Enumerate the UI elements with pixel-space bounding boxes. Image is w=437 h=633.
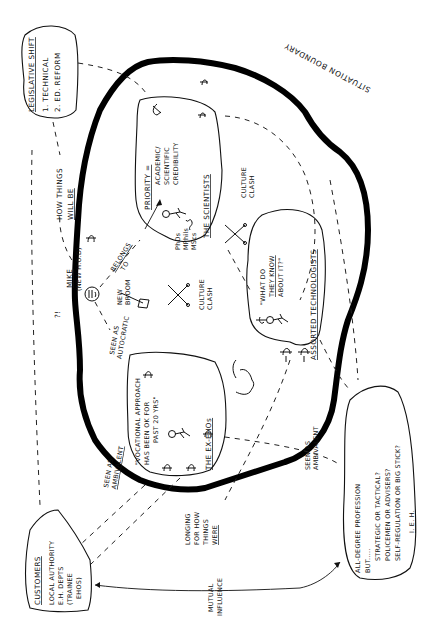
scientist-figures	[163, 208, 193, 230]
customers-line-4: EHOS)	[75, 577, 83, 599]
exehos-quote-3: PAST 20 YRS"	[152, 396, 160, 443]
profession-line-3: STRATEGIC OR TACTICAL?	[374, 472, 382, 561]
hat-icon	[186, 465, 196, 471]
hat-icon	[280, 348, 292, 362]
how-things-link	[53, 122, 60, 155]
technologists-title-group: ASSORTED TECHNOLOGISTS	[309, 249, 318, 360]
arrowhead	[95, 582, 100, 588]
crossed-swords-icon	[168, 284, 190, 307]
hat-icon	[200, 80, 208, 85]
profession-text: ALL-DEGREE PROFESSION BUT..... STRATEGIC…	[354, 445, 416, 573]
seen-ambivalent-right-text-1: SEEN AS	[304, 441, 312, 470]
culture-clash-1: CULTURE CLASH	[240, 167, 256, 198]
boundary-to-profession	[330, 180, 358, 380]
hat-icon	[198, 113, 206, 118]
technologists-quote: "WHAT DO THEY KNOW ABOUT IT?"	[259, 255, 285, 305]
priority-line-1: ACADEMIC/	[154, 146, 162, 185]
longing-text-3: THINGS	[202, 519, 210, 546]
degree-msc: MScs	[190, 232, 198, 250]
how-things-text-1: HOW THINGS	[55, 168, 64, 220]
rich-picture-diagram: SITUATION BOUNDARY LEGISLATIVE SHIFT 1. …	[0, 0, 437, 633]
hat-icon	[153, 104, 161, 115]
scientists-priority: PRIORITY = ACADEMIC/ SCIENTIFIC CREDIBIL…	[143, 142, 180, 210]
legislative-item-1: 1. TECHNICAL	[41, 57, 50, 112]
technologist-figures	[256, 314, 288, 324]
profession-line-2: BUT.....	[364, 548, 372, 573]
face-profile-icon	[233, 360, 254, 394]
exehos-title-group: THE EX-EHOs	[204, 418, 213, 471]
exehos-quote: "VOCATIONAL APPROACH HAS BEEN OK FOR PAS…	[134, 378, 160, 465]
exehos-quote-1: "VOCATIONAL APPROACH	[134, 378, 142, 465]
crossed-swords-icon	[225, 224, 247, 245]
mike-role: (NEW H.O.D)	[75, 247, 83, 291]
mutual-text-1: MUTUAL	[207, 583, 215, 612]
longing-link	[90, 478, 180, 565]
priority-line-3: CREDIBILITY	[172, 142, 180, 185]
exehos-title: THE EX-EHOs	[204, 418, 213, 471]
legislative-text: LEGISLATIVE SHIFT 1. TECHNICAL 2. ED. RE…	[27, 37, 62, 112]
longing-text-4: WERE	[211, 525, 219, 545]
boundary-label: SITUATION BOUNDARY	[283, 41, 372, 94]
mike-name: MIKE	[65, 269, 74, 288]
mike-exclaim-text: ?!	[53, 311, 62, 319]
profession-footer: I. E. H.	[408, 510, 416, 533]
how-things-text-2: WILL BE	[66, 188, 75, 220]
tech-quote-3: ABOUT IT?"	[277, 258, 285, 297]
tech-quote-1: "WHAT DO	[259, 269, 267, 305]
arrowhead	[156, 199, 162, 206]
priority-line-2: SCIENTIFIC	[163, 147, 171, 185]
customers-line-1: LOCAL AUTHORITY	[48, 541, 56, 605]
seen-autocratic-label: SEEN AS AUTOCRATIC	[108, 314, 131, 360]
hat-icon	[162, 465, 172, 471]
legislative-to-customers	[32, 150, 40, 505]
exehos-to-customers	[80, 485, 145, 545]
seen-ambivalent-right-text-2: AMBIVALENT	[312, 426, 320, 470]
mutual-influence-label: MUTUAL INFLUENCE	[207, 578, 224, 616]
customers-text: CUSTOMERS LOCAL AUTHORITY E.H. DEPTS (TR…	[33, 541, 83, 605]
hat-icon	[86, 236, 96, 242]
new-broom-text-2: BROOM	[124, 279, 132, 305]
scientists-title: THE SCIENTISTS	[202, 174, 211, 239]
profession-line-5: SELF-REGULATION OR BIG STICK?	[394, 445, 402, 561]
customers-line-2: E.H. DEPTS	[57, 566, 65, 605]
profession-line-4: POLICEMEN OR ADVISERS?	[384, 468, 392, 561]
boundary-label-group: SITUATION BOUNDARY	[283, 41, 372, 94]
seen-ambivalent-right: SEEN AS AMBIVALENT	[304, 426, 320, 470]
customers-title: CUSTOMERS	[33, 556, 42, 605]
mike-to-exehos	[95, 302, 110, 330]
culture-clash-1-text: CULTURE	[240, 167, 248, 198]
degree-mphil: MPhils	[182, 228, 190, 250]
culture-clash-2-text: CULTURE	[198, 279, 206, 310]
new-broom-label: NEW BROOM	[116, 279, 132, 305]
new-broom-text-1: NEW	[116, 289, 124, 305]
longing-text-1: LONGING	[184, 513, 192, 545]
legislative-title: LEGISLATIVE SHIFT	[27, 37, 36, 112]
degree-phd: PhDs	[174, 232, 182, 250]
culture-clash-2-text-2: CLASH	[206, 287, 214, 310]
belongs-to-label: BELONGS TO	[109, 241, 140, 277]
tech-quote-2: THEY KNOW	[268, 255, 276, 298]
exehos-figures	[169, 428, 191, 438]
situation-boundary	[75, 60, 368, 490]
arrowhead	[334, 562, 340, 568]
customers-line-3: (TRAINEE	[66, 573, 74, 605]
profession-line-1: ALL-DEGREE PROFESSION	[354, 484, 362, 573]
priority-label: PRIORITY =	[143, 165, 152, 210]
exehos-quote-2: HAS BEEN OK FOR	[143, 401, 151, 465]
how-things-label: HOW THINGS WILL BE	[55, 168, 75, 220]
degrees-group: PhDs MPhils MScs	[174, 228, 198, 250]
mike-upper-link	[60, 215, 72, 260]
mike-exclaim: ?!	[53, 311, 62, 319]
mutual-text-2: INFLUENCE	[216, 578, 224, 616]
culture-clash-1-text-2: CLASH	[248, 175, 256, 198]
scientists-title-group: THE SCIENTISTS	[202, 174, 211, 239]
technologists-title: ASSORTED TECHNOLOGISTS	[309, 249, 318, 360]
culture-clash-2: CULTURE CLASH	[198, 279, 214, 310]
longing-text-2: FOR HOW	[193, 511, 201, 545]
hat-icon	[143, 372, 153, 378]
legislative-item-2: 2. ED. REFORM	[53, 52, 62, 112]
mike-face-icon	[85, 287, 99, 301]
longing-label: LONGING FOR HOW THINGS WERE	[184, 511, 219, 546]
